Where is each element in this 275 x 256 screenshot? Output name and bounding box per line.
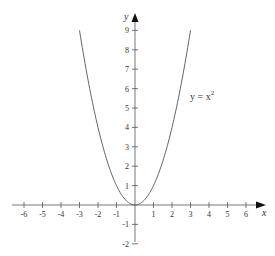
x-tick-label: -2: [95, 210, 102, 219]
y-axis-label: y: [123, 11, 129, 22]
y-tick-label: 7: [125, 65, 129, 74]
x-tick-label: 3: [189, 210, 193, 219]
x-tick-label: -3: [76, 210, 83, 219]
x-tick-label: 2: [170, 210, 174, 219]
y-tick-label: 5: [125, 104, 129, 113]
y-tick-label: 8: [125, 46, 129, 55]
y-tick-label: 2: [125, 162, 129, 171]
y-tick-label: 6: [125, 85, 129, 94]
x-tick-label: -4: [58, 210, 65, 219]
parabola-chart: x y -6-5-4-3-2-1123456 987654321-1-2 y =…: [0, 0, 275, 256]
x-tick-label: -5: [39, 210, 46, 219]
curve-label-text: y = x: [190, 91, 211, 102]
y-tick-label: -1: [122, 220, 129, 229]
curve-label-exponent: 2: [211, 89, 215, 97]
x-tick-label: -1: [113, 210, 120, 219]
y-tick-label: 4: [125, 123, 129, 132]
x-tick-label: 6: [244, 210, 248, 219]
x-tick-label: -6: [21, 210, 28, 219]
y-tick-label: 9: [125, 26, 129, 35]
y-tick-label: 1: [125, 182, 129, 191]
x-tick-label: 4: [207, 210, 211, 219]
y-axis-arrow-icon: [132, 13, 139, 22]
y-ticks: 987654321-1-2: [122, 26, 138, 248]
x-tick-label: 1: [152, 210, 156, 219]
curve-label: y = x2: [190, 89, 215, 102]
y-tick-label: 3: [125, 143, 129, 152]
y-tick-label: -2: [122, 240, 129, 249]
x-axis-label: x: [261, 207, 267, 218]
x-tick-label: 5: [226, 210, 230, 219]
